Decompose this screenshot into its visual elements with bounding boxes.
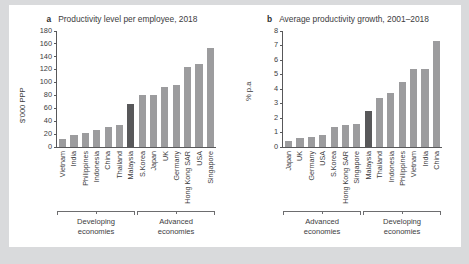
chart-panel: a Productivity level per employee, 2018 …	[9, 5, 461, 247]
x-label-cell: S.Korea	[137, 150, 148, 205]
x-label-cell: Philippines	[397, 150, 408, 205]
tick-mark	[280, 89, 283, 90]
x-axis-label: Thailand	[376, 151, 384, 179]
group-bracket: Developingeconomies	[363, 211, 441, 245]
tick-mark	[280, 31, 283, 32]
chart-b-bars	[283, 31, 442, 147]
tick-label: 3	[274, 98, 278, 107]
bar	[139, 95, 146, 147]
tick-label: 140	[40, 52, 52, 61]
bar-cell	[137, 31, 148, 147]
x-label-cell: USA	[194, 150, 205, 205]
bar	[331, 127, 338, 147]
chart-panel-a: a Productivity level per employee, 2018 …	[9, 5, 235, 247]
bar	[116, 125, 123, 147]
tick-mark	[54, 43, 57, 44]
bar	[433, 41, 440, 147]
x-label-cell: Singapore	[205, 150, 216, 205]
bar	[421, 69, 428, 147]
bracket-cap-right	[360, 211, 361, 215]
tick-label: 20	[44, 129, 52, 138]
chart-a-x-axis	[56, 147, 216, 148]
x-axis-label: S.Korea	[139, 151, 147, 177]
x-label-cell: India	[420, 150, 431, 205]
x-axis-label: USA	[319, 151, 327, 166]
bracket-cap-left	[57, 211, 58, 215]
x-axis-label: Indonesia	[93, 151, 101, 182]
group-label-line2: economies	[363, 227, 441, 237]
bar-cell	[125, 31, 136, 147]
tick-mark	[54, 69, 57, 70]
chart-b-x-axis	[282, 147, 442, 148]
x-axis-label: Hong Kong SAR	[342, 151, 350, 204]
tick-label: 120	[40, 64, 52, 73]
tick-mark	[54, 56, 57, 57]
bar-cell	[397, 31, 408, 147]
bar-cell	[205, 31, 216, 147]
tick-mark	[54, 134, 57, 135]
x-label-cell: S.Korea	[329, 150, 340, 205]
bar	[387, 93, 394, 147]
x-label-cell: UK	[294, 150, 305, 205]
tick-label: 8	[274, 26, 278, 35]
x-axis-label: Vietnam	[59, 151, 67, 177]
tick-mark	[280, 118, 283, 119]
bar-cell	[431, 31, 442, 147]
bar-cell	[182, 31, 193, 147]
x-axis-label: Malaysia	[127, 151, 135, 179]
bar	[195, 64, 202, 147]
bar	[161, 87, 168, 147]
x-label-cell: India	[68, 150, 79, 205]
x-axis-label: Singapore	[353, 151, 361, 184]
group-label-line1: Advanced	[137, 217, 215, 227]
bar-cell	[148, 31, 159, 147]
x-label-cell: Malaysia	[363, 150, 374, 205]
x-label-cell: Indonesia	[386, 150, 397, 205]
tick-mark	[54, 147, 57, 148]
x-label-cell: Indonesia	[91, 150, 102, 205]
bar	[296, 138, 303, 147]
x-axis-label: Indonesia	[388, 151, 396, 182]
bar-cell	[57, 31, 68, 147]
x-label-cell: Japan	[283, 150, 294, 205]
x-axis-label: Germany	[308, 151, 316, 181]
bar	[365, 111, 372, 147]
tick-label: 0	[274, 142, 278, 151]
x-label-cell: Hong Kong SAR	[340, 150, 351, 205]
group-bracket: Advancedeconomies	[137, 211, 215, 245]
bar-cell	[91, 31, 102, 147]
bracket-center-tick	[402, 211, 403, 214]
tick-label: 6	[274, 55, 278, 64]
chart-b-x-labels: JapanUKGermanyUSAS.KoreaHong Kong SARSin…	[283, 150, 443, 205]
bracket-center-tick	[322, 211, 323, 214]
bracket-cap-left	[363, 211, 364, 215]
bar	[342, 125, 349, 147]
group-bracket: Advancedeconomies	[283, 211, 361, 245]
bracket-cap-right	[214, 211, 215, 215]
x-label-cell: Hong Kong SAR	[183, 150, 194, 205]
tick-label: 1	[274, 127, 278, 136]
x-label-cell: UK	[160, 150, 171, 205]
bar	[70, 135, 77, 147]
chart-panel-b: b Average productivity growth, 2001–2018…	[235, 5, 461, 247]
tick-mark	[54, 121, 57, 122]
chart-a-x-labels: VietnamIndiaPhilippinesIndonesiaChinaTha…	[57, 150, 217, 205]
tick-mark	[280, 74, 283, 75]
x-axis-label: S.Korea	[330, 151, 338, 177]
chart-a-group-brackets: DevelopingeconomiesAdvancedeconomies	[57, 211, 217, 245]
group-label: Developingeconomies	[363, 217, 441, 236]
chart-a-title: a Productivity level per employee, 2018	[9, 14, 235, 24]
bar	[376, 98, 383, 147]
tick-label: 40	[44, 116, 52, 125]
x-label-cell: Japan	[148, 150, 159, 205]
bar	[59, 139, 66, 147]
bar-cell	[193, 31, 204, 147]
x-label-cell: China	[431, 150, 442, 205]
x-axis-label: Philippines	[82, 151, 90, 186]
tick-label: 2	[274, 113, 278, 122]
x-axis-label: Thailand	[116, 151, 124, 179]
bar-cell	[159, 31, 170, 147]
bar	[353, 124, 360, 147]
tick-label: 160	[40, 39, 52, 48]
bracket-center-tick	[96, 211, 97, 214]
